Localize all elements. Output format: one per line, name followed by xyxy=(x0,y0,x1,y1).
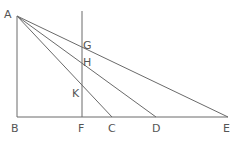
geometry-diagram: A B F C D E G H K xyxy=(0,0,237,148)
label-point-C: C xyxy=(108,122,116,135)
segment-AC xyxy=(17,16,112,117)
label-point-K: K xyxy=(72,87,80,100)
label-point-G: G xyxy=(83,39,92,52)
segment-AE xyxy=(17,16,228,117)
label-point-E: E xyxy=(223,122,230,135)
label-point-B: B xyxy=(11,122,19,135)
label-point-A: A xyxy=(4,8,12,21)
label-point-F: F xyxy=(78,122,84,135)
label-point-H: H xyxy=(83,56,91,69)
label-point-D: D xyxy=(152,122,160,135)
